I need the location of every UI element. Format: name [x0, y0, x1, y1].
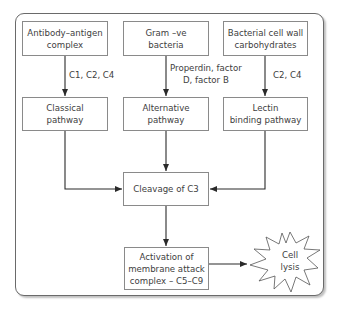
node-text: Alternative	[142, 102, 189, 114]
node-text: Activation of	[128, 251, 205, 263]
node-text: carbohydrates	[228, 39, 303, 51]
node-alternative-pathway: Alternativepathway	[123, 97, 209, 131]
node-text: Bacterial cell wall	[228, 27, 303, 39]
node-text: lysis	[270, 261, 310, 273]
node-text: Cleavage of C3	[133, 183, 198, 195]
node-classical-pathway: Classicalpathway	[22, 97, 108, 131]
node-bacterial-cell-wall: Bacterial cell wallcarbohydrates	[223, 21, 308, 56]
node-text: complex	[27, 39, 102, 51]
edge-label-classical: C1, C2, C4	[69, 69, 114, 81]
node-text: pathway	[46, 114, 83, 126]
node-text: Classical	[46, 102, 83, 114]
node-text: Gram –ve	[145, 27, 186, 39]
node-text: complex – C5–C9	[128, 275, 205, 287]
arrow-lectin-to-cleavage	[210, 130, 265, 189]
node-text: Lectin	[230, 102, 302, 114]
edge-label-line: D, factor B	[170, 74, 242, 86]
node-gram-negative-bacteria: Gram –vebacteria	[123, 21, 209, 56]
node-cell-lysis: Cell lysis	[270, 249, 310, 273]
node-text: Antibody–antigen	[27, 27, 102, 39]
node-text: binding pathway	[230, 114, 302, 126]
node-cleavage-of-c3: Cleavage of C3	[123, 172, 209, 206]
node-membrane-attack-complex: Activation ofmembrane attackcomplex – C5…	[124, 247, 209, 290]
node-text: bacteria	[145, 39, 186, 51]
arrow-classical-to-cleavage	[65, 130, 122, 189]
edge-label-alternative: Properdin, factor D, factor B	[170, 62, 242, 86]
node-text: membrane attack	[128, 263, 205, 275]
node-text: pathway	[142, 114, 189, 126]
node-antibody-antigen-complex: Antibody–antigencomplex	[22, 21, 108, 56]
edge-label-line: Properdin, factor	[170, 62, 242, 74]
edge-label-lectin: C2, C4	[273, 69, 301, 81]
node-lectin-binding-pathway: Lectinbinding pathway	[223, 97, 308, 131]
node-text: Cell	[270, 249, 310, 261]
